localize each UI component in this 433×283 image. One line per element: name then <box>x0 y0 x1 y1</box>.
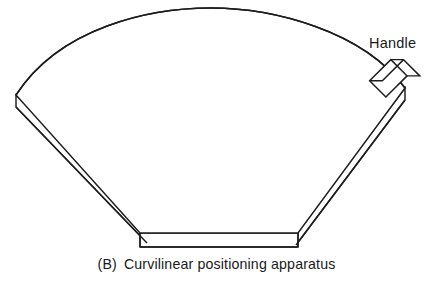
handle-label: Handle <box>369 35 416 51</box>
figure-caption-letter: (B) <box>98 256 117 272</box>
plate-solid-body <box>16 8 405 247</box>
curvilinear-positioning-apparatus-drawing: Handle <box>0 0 433 283</box>
plate-bottom-front-face <box>140 233 298 247</box>
figure-caption: (B)Curvilinear positioning apparatus <box>0 256 433 272</box>
figure-container: Handle (B)Curvilinear positioning appara… <box>0 0 433 283</box>
figure-caption-text: Curvilinear positioning apparatus <box>124 256 336 272</box>
